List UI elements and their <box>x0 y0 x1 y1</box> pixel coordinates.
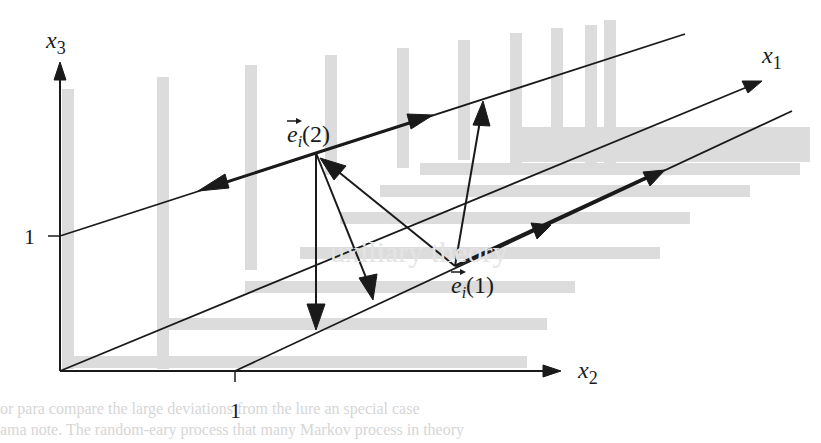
x2-label: x2 <box>577 357 598 388</box>
lattice-transition-diagram: x3 x1 x2 1 1 ei(2) ei(1) <box>0 0 821 443</box>
arrow-right-icon <box>407 114 433 129</box>
e-i-2-label: ei(2) <box>287 118 330 150</box>
svg-text:ei(1): ei(1) <box>451 272 494 301</box>
x3-tick-label: 1 <box>24 224 35 249</box>
arrow-right-icon <box>643 170 665 186</box>
x3-arrowhead-icon <box>54 62 66 80</box>
svg-text:ei(2): ei(2) <box>287 121 330 150</box>
background-shadow-bars <box>62 20 810 369</box>
vector-arrow-icon <box>460 269 466 275</box>
bleed-through-text-line: ama note. The random-eary process that m… <box>0 421 821 439</box>
e-i-1-label: ei(1) <box>451 269 494 301</box>
x3-label: x3 <box>45 27 66 58</box>
vector-arrow-icon <box>296 118 302 124</box>
bleed-through-text-line: or para compare the large deviations fro… <box>0 400 821 418</box>
arrow-left-icon <box>198 174 229 191</box>
bleed-through-heading: uxiliary theory <box>330 235 821 269</box>
x2-arrowhead-icon <box>543 365 561 377</box>
arrow-up-icon <box>473 101 490 126</box>
x1-label: x1 <box>761 42 782 73</box>
x1-arrowhead-icon <box>742 81 762 93</box>
